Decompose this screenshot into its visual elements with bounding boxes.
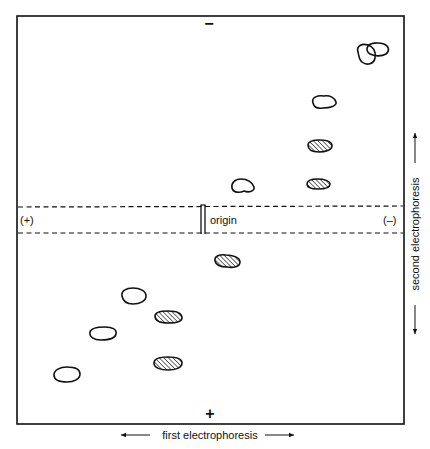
hatched-spot <box>154 357 182 370</box>
first-electrophoresis-axis: first electrophoresis <box>121 429 294 441</box>
bottom-pole-label: + <box>205 405 214 422</box>
second-electrophoresis-axis: second electrophoresis <box>409 133 421 334</box>
hatched-spot <box>155 311 182 323</box>
spots-layer <box>54 43 388 382</box>
origin-band-top-line <box>18 206 403 207</box>
open-spot <box>313 96 336 109</box>
left-pole-label: (+) <box>20 214 34 226</box>
open-spot <box>90 327 116 340</box>
x-axis-label: first electrophoresis <box>162 429 258 441</box>
origin-marker <box>201 205 206 234</box>
electrophoresis-diagram: origin (+) (–) − + first electrophoresis… <box>0 0 430 449</box>
open-spot <box>367 43 389 56</box>
hatched-spot <box>215 255 240 268</box>
open-spot <box>122 288 146 304</box>
hatched-spot <box>307 179 330 189</box>
open-spot <box>232 179 254 192</box>
origin-label: origin <box>210 214 237 226</box>
y-axis-label: second electrophoresis <box>409 177 421 291</box>
top-pole-label: − <box>204 15 213 32</box>
open-spot <box>54 367 80 382</box>
right-pole-label: (–) <box>383 214 396 226</box>
hatched-spot <box>308 140 332 152</box>
